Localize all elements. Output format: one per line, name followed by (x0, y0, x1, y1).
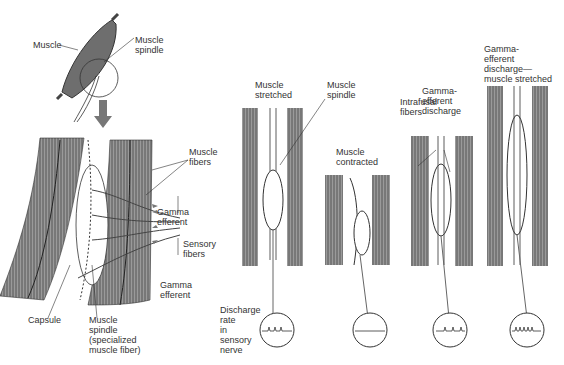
label-discharge-rate: Discharge rate in sensory nerve (220, 305, 261, 355)
label-capsule: Capsule (28, 315, 61, 325)
label-sensory-fibers: Sensory fibers (183, 239, 216, 259)
label-gamma-efferent-bottom: Gamma efferent (160, 280, 192, 300)
label-gamma-stretched: Gamma- efferent discharge— muscle stretc… (484, 44, 552, 84)
state-gamma-discharge (411, 136, 473, 347)
label-muscle-stretched: Muscle stretched (255, 80, 292, 100)
label-muscle-fibers: Muscle fibers (189, 147, 218, 167)
state-gamma-stretched (487, 86, 548, 347)
label-muscle-spindle: Muscle spindle (135, 35, 164, 55)
muscle-spindle-diagram (0, 0, 564, 365)
label-muscle-contracted: Muscle contracted (336, 147, 378, 167)
label-right-muscle-spindle: Muscle spindle (327, 80, 356, 100)
label-muscle: Muscle (33, 40, 62, 50)
down-arrow-icon (94, 100, 112, 128)
label-spindle-detail: Muscle spindle (specialized muscle fiber… (89, 315, 141, 355)
state-contracted (325, 175, 390, 347)
muscle-fibers-detail (0, 138, 180, 305)
whole-muscle-illustration (57, 14, 118, 122)
label-gamma-discharge: Gamma- efferent discharge (422, 86, 461, 116)
label-gamma-efferent-top: Gamma efferent (157, 207, 189, 227)
